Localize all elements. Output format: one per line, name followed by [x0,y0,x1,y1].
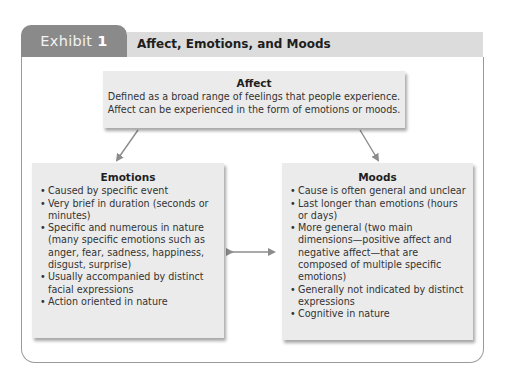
list-item: More general (two main dimensions—positi… [290,222,467,283]
affect-description-line1: Defined as a broad range of feelings tha… [108,91,400,102]
list-item: Specific and numerous in nature (many sp… [40,222,218,271]
moods-title: Moods [282,163,473,183]
moods-list: Cause is often general and unclear Last … [282,185,473,320]
affect-description: Defined as a broad range of feelings tha… [103,91,405,116]
list-item: Cause is often general and unclear [290,185,467,197]
emotions-title: Emotions [32,163,224,183]
arrow-affect-to-emotions [117,130,138,160]
affect-description-line2: Affect can be experienced in the form of… [108,104,401,115]
arrow-affect-to-moods [360,130,378,160]
affect-box: Affect Defined as a broad range of feeli… [103,71,405,128]
emotions-list: Caused by specific event Very brief in d… [32,185,224,308]
emotions-box: Emotions Caused by specific event Very b… [32,163,224,338]
list-item: Generally not indicated by distinct expr… [290,284,467,309]
list-item: Caused by specific event [40,185,218,197]
list-item: Action oriented in nature [40,296,218,308]
list-item: Usually accompanied by distinct facial e… [40,271,218,296]
list-item: Very brief in duration (seconds or minut… [40,198,218,223]
moods-box: Moods Cause is often general and unclear… [282,163,473,340]
affect-title: Affect [103,71,405,89]
list-item: Last longer than emotions (hours or days… [290,198,467,223]
list-item: Cognitive in nature [290,308,467,320]
